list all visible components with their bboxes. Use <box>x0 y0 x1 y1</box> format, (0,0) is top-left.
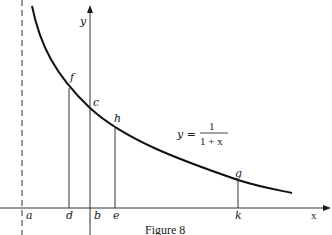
figure-diagram: y x f c h g a d b e k y = 1 1 + x Figure… <box>0 0 332 235</box>
point-label-c: c <box>93 96 99 109</box>
axis-label-b: b <box>94 209 101 222</box>
curve-one-over-one-plus-x <box>32 6 292 193</box>
axis-label-d: d <box>66 209 73 222</box>
equation-lhs: y = <box>176 128 196 141</box>
point-label-g: g <box>235 167 242 180</box>
x-axis-label: x <box>311 209 317 221</box>
axis-label-a: a <box>26 209 33 222</box>
point-label-h: h <box>114 112 121 125</box>
x-axis-arrow-icon <box>323 205 331 211</box>
axis-label-k: k <box>235 209 242 222</box>
y-axis-arrow-icon <box>87 5 93 13</box>
figure-caption: Figure 8 <box>145 223 185 235</box>
equation-denominator: 1 + x <box>200 135 223 147</box>
equation-numerator: 1 <box>209 120 215 132</box>
equation-label: y = 1 1 + x <box>176 120 228 147</box>
y-axis-label: y <box>79 15 87 28</box>
point-label-f: f <box>69 71 76 84</box>
axis-label-e: e <box>113 209 120 222</box>
